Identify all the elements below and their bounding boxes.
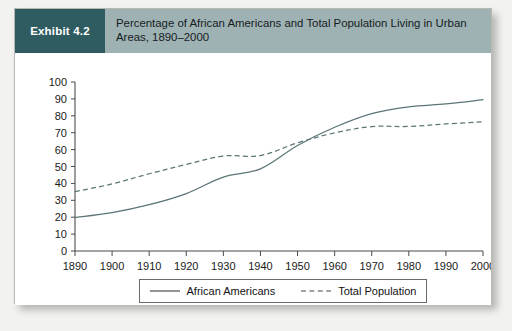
- y-tick-label: 100: [49, 76, 67, 88]
- y-tick-label: 80: [55, 110, 67, 122]
- legend-swatch-dashed: [301, 287, 331, 295]
- x-tick-label: 1980: [397, 260, 421, 272]
- chart-plot-area: 0102030405060708090100189019001910192019…: [15, 53, 491, 305]
- x-tick-label: 1890: [63, 260, 87, 272]
- x-tick-label: 1910: [137, 260, 161, 272]
- legend-swatch-solid: [150, 287, 180, 295]
- exhibit-title: Percentage of African Americans and Tota…: [105, 9, 491, 53]
- y-tick-label: 10: [55, 228, 67, 240]
- series-line-total-population: [75, 122, 483, 192]
- x-tick-label: 1960: [322, 260, 346, 272]
- x-tick-label: 1930: [211, 260, 235, 272]
- chart-legend: African Americans Total Population: [139, 279, 427, 303]
- x-tick-label: 1950: [285, 260, 309, 272]
- legend-label-african-americans: African Americans: [187, 285, 276, 297]
- x-tick-label: 1990: [434, 260, 458, 272]
- y-tick-label: 70: [55, 127, 67, 139]
- legend-item-african-americans: African Americans: [150, 285, 276, 297]
- y-tick-label: 90: [55, 93, 67, 105]
- x-tick-label: 1940: [248, 260, 272, 272]
- y-tick-label: 60: [55, 144, 67, 156]
- exhibit-card: Exhibit 4.2 Percentage of African Americ…: [14, 8, 492, 304]
- legend-label-total-population: Total Population: [338, 285, 416, 297]
- x-tick-label: 1970: [359, 260, 383, 272]
- line-chart: 0102030405060708090100189019001910192019…: [15, 53, 491, 305]
- x-tick-label: 1900: [100, 260, 124, 272]
- x-tick-label: 2000: [471, 260, 491, 272]
- series-line-african-americans: [75, 100, 483, 218]
- y-tick-label: 0: [61, 245, 67, 257]
- legend-item-total-population: Total Population: [301, 285, 416, 297]
- page-background: Exhibit 4.2 Percentage of African Americ…: [0, 0, 512, 331]
- y-tick-label: 30: [55, 194, 67, 206]
- x-tick-label: 1920: [174, 260, 198, 272]
- exhibit-header: Exhibit 4.2 Percentage of African Americ…: [15, 9, 491, 53]
- y-tick-label: 40: [55, 177, 67, 189]
- exhibit-number-tag: Exhibit 4.2: [15, 9, 105, 53]
- y-tick-label: 50: [55, 161, 67, 173]
- y-tick-label: 20: [55, 211, 67, 223]
